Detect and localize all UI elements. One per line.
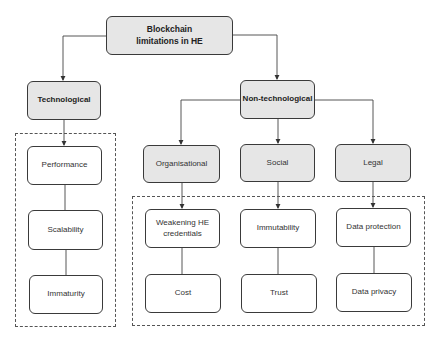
social-label: Social (267, 158, 289, 169)
trust-node: Trust (241, 274, 317, 313)
root-node: Blockchain limitations in HE (106, 16, 233, 55)
scalability-label: Scalability (47, 225, 83, 236)
performance-node: Performance (27, 146, 102, 185)
root-label: Blockchain limitations in HE (130, 24, 210, 47)
data-protection-label: Data protection (346, 222, 400, 233)
performance-label: Performance (42, 160, 88, 171)
edge-root-technological (63, 36, 106, 80)
edge-nontech-legal (315, 100, 373, 143)
legal-node: Legal (335, 144, 411, 182)
trust-label: Trust (270, 288, 288, 299)
immutability-node: Immutability (240, 209, 316, 248)
scalability-node: Scalability (28, 210, 103, 250)
immutability-label: Immutability (257, 223, 300, 234)
data-privacy-node: Data privacy (336, 273, 412, 312)
non-technological-node: Non-technological (240, 80, 315, 119)
edge-root-nontech (233, 35, 277, 79)
immaturity-node: Immaturity (29, 275, 103, 314)
cost-label: Cost (175, 288, 191, 299)
organisational-node: Organisational (143, 145, 220, 183)
data-protection-node: Data protection (336, 208, 411, 247)
cost-node: Cost (145, 274, 221, 313)
weakening-credentials-label: Weakening HE credentials (152, 218, 214, 240)
technological-label: Technological (37, 95, 90, 106)
weakening-credentials-node: Weakening HE credentials (145, 209, 220, 248)
organisational-label: Organisational (156, 159, 208, 170)
legal-label: Legal (363, 158, 383, 169)
non-technological-label: Non-technological (243, 94, 313, 105)
data-privacy-label: Data privacy (352, 287, 396, 298)
social-node: Social (240, 144, 315, 182)
edge-nontech-organisational (181, 100, 240, 144)
technological-node: Technological (27, 81, 101, 120)
immaturity-label: Immaturity (47, 289, 84, 300)
